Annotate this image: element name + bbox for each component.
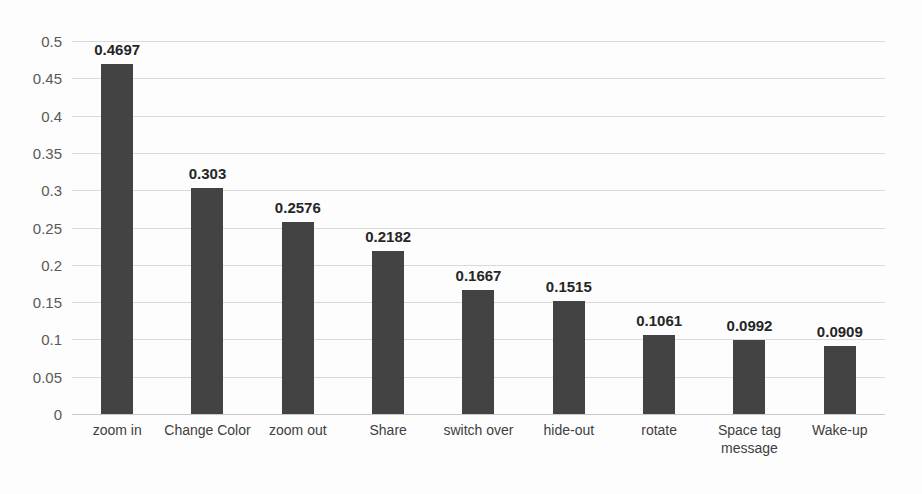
y-axis-tick-label: 0.25 bbox=[14, 220, 62, 235]
x-axis-category-label: Wake-up bbox=[795, 422, 885, 440]
bar-value-label: 0.2182 bbox=[365, 229, 411, 244]
bar-value-label: 0.1061 bbox=[636, 313, 682, 328]
bar-value-label: 0.1515 bbox=[546, 279, 592, 294]
x-axis-category-label: Change Color bbox=[162, 422, 252, 440]
bar-slot: 0.1667 bbox=[433, 41, 523, 414]
bar[interactable] bbox=[733, 340, 765, 414]
bar-value-label: 0.0992 bbox=[727, 318, 773, 333]
bar-chart: 0.50.450.40.350.30.250.20.150.10.050 0.4… bbox=[0, 0, 922, 494]
y-axis-tick-label: 0.45 bbox=[14, 71, 62, 86]
y-axis-tick-label: 0.35 bbox=[14, 145, 62, 160]
bar[interactable] bbox=[462, 290, 494, 414]
bar-value-label: 0.2576 bbox=[275, 200, 321, 215]
bar-value-label: 0.0909 bbox=[817, 324, 863, 339]
bar-slot: 0.2182 bbox=[343, 41, 433, 414]
bar-slot: 0.0909 bbox=[795, 41, 885, 414]
bar-value-label: 0.4697 bbox=[94, 42, 140, 57]
bar-slot: 0.1061 bbox=[614, 41, 704, 414]
y-axis-tick-label: 0 bbox=[14, 407, 62, 422]
x-axis-category-label: rotate bbox=[614, 422, 704, 440]
bar[interactable] bbox=[824, 346, 856, 414]
axis-baseline bbox=[72, 414, 885, 415]
y-axis-tick-label: 0.15 bbox=[14, 295, 62, 310]
bar[interactable] bbox=[553, 301, 585, 414]
x-axis-category-label: hide-out bbox=[524, 422, 614, 440]
bar[interactable] bbox=[643, 335, 675, 414]
x-axis-category-label: Share bbox=[343, 422, 433, 440]
bar-slot: 0.303 bbox=[162, 41, 252, 414]
bar-slot: 0.4697 bbox=[72, 41, 162, 414]
y-axis-tick-label: 0.2 bbox=[14, 257, 62, 272]
y-axis-tick-label: 0.5 bbox=[14, 34, 62, 49]
x-axis-category-label: Space tag message bbox=[704, 422, 794, 457]
bar-slot: 0.1515 bbox=[524, 41, 614, 414]
bar-slot: 0.2576 bbox=[253, 41, 343, 414]
x-axis-category-label: zoom in bbox=[72, 422, 162, 440]
bars-layer: 0.46970.3030.25760.21820.16670.15150.106… bbox=[72, 41, 885, 414]
x-axis-category-label: zoom out bbox=[253, 422, 343, 440]
bar[interactable] bbox=[101, 64, 133, 414]
bar[interactable] bbox=[282, 222, 314, 414]
y-axis-tick-label: 0.4 bbox=[14, 108, 62, 123]
bar[interactable] bbox=[191, 188, 223, 414]
y-axis-tick-label: 0.1 bbox=[14, 332, 62, 347]
x-axis-category-label: switch over bbox=[433, 422, 523, 440]
y-axis-tick-label: 0.3 bbox=[14, 183, 62, 198]
y-axis: 0.50.450.40.350.30.250.20.150.10.050 bbox=[0, 41, 62, 414]
bar-value-label: 0.1667 bbox=[456, 268, 502, 283]
bar-value-label: 0.303 bbox=[189, 166, 227, 181]
bar-slot: 0.0992 bbox=[704, 41, 794, 414]
x-axis-labels: zoom inChange Colorzoom outShareswitch o… bbox=[72, 422, 885, 482]
y-axis-tick-label: 0.05 bbox=[14, 369, 62, 384]
bar[interactable] bbox=[372, 251, 404, 414]
